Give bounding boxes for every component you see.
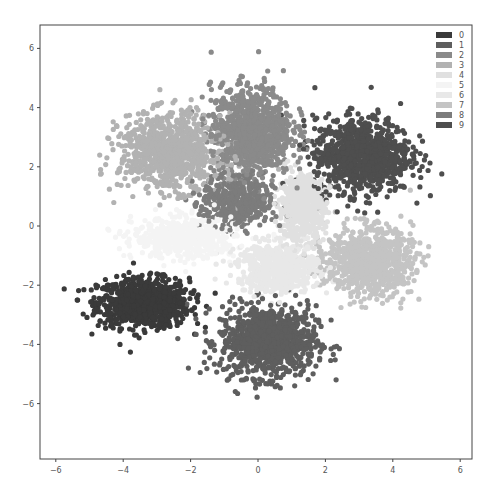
data-point: [111, 200, 116, 205]
data-point: [221, 247, 226, 252]
data-point: [224, 311, 229, 316]
data-point: [302, 251, 307, 256]
legend: 0123456789: [436, 31, 464, 130]
data-point: [295, 258, 300, 263]
data-point: [236, 119, 241, 124]
data-point: [108, 311, 113, 316]
data-point: [176, 222, 181, 227]
data-point: [259, 323, 264, 328]
data-point: [318, 265, 323, 270]
data-point: [160, 116, 165, 121]
data-point: [389, 132, 394, 137]
data-point: [172, 185, 177, 190]
data-point: [313, 317, 318, 322]
data-point: [277, 101, 282, 106]
data-point: [276, 355, 281, 360]
legend-swatch: [436, 42, 452, 48]
data-point: [153, 240, 158, 245]
data-point: [261, 365, 266, 370]
data-point: [275, 314, 280, 319]
data-point: [251, 118, 256, 123]
data-point: [142, 312, 147, 317]
data-point: [254, 288, 259, 293]
data-point: [277, 300, 282, 305]
legend-swatch: [436, 32, 452, 38]
x-tick-label: −4: [117, 466, 129, 475]
data-point: [327, 184, 332, 189]
data-point: [213, 99, 218, 104]
data-point: [129, 144, 134, 149]
legend-label: 2: [459, 51, 464, 60]
data-point: [259, 116, 264, 121]
data-point: [232, 121, 237, 126]
data-point: [373, 192, 378, 197]
data-point: [279, 309, 284, 314]
data-point: [303, 287, 308, 292]
legend-item-2: 2: [436, 51, 464, 60]
data-point: [375, 288, 380, 293]
data-point: [319, 177, 324, 182]
data-point: [291, 153, 296, 158]
data-point: [209, 132, 214, 137]
x-tick-label: 0: [255, 466, 260, 475]
data-point: [275, 283, 280, 288]
data-point: [228, 263, 233, 268]
data-point: [207, 82, 212, 87]
data-point: [164, 174, 169, 179]
data-point: [375, 210, 380, 215]
data-point: [165, 118, 170, 123]
data-point: [295, 185, 300, 190]
data-point: [223, 340, 228, 345]
data-point: [234, 349, 239, 354]
data-point: [331, 352, 336, 357]
data-point: [256, 49, 261, 54]
data-point: [126, 183, 131, 188]
data-point: [235, 370, 240, 375]
data-point: [282, 184, 287, 189]
data-point: [395, 262, 400, 267]
data-point: [355, 208, 360, 213]
data-point: [268, 133, 273, 138]
data-point: [200, 116, 205, 121]
data-point: [260, 135, 265, 140]
data-point: [273, 293, 278, 298]
data-point: [243, 136, 248, 141]
data-point: [149, 234, 154, 239]
data-point: [373, 252, 378, 257]
data-point: [355, 288, 360, 293]
data-point: [260, 296, 265, 301]
data-point: [178, 143, 183, 148]
data-point: [224, 280, 229, 285]
data-point: [334, 344, 339, 349]
data-point: [217, 113, 222, 118]
data-point: [375, 238, 380, 243]
data-point: [281, 68, 286, 73]
data-point: [140, 129, 145, 134]
data-point: [250, 282, 255, 287]
data-point: [262, 207, 267, 212]
data-point: [258, 254, 263, 259]
data-point: [366, 136, 371, 141]
data-point: [220, 142, 225, 147]
data-point: [394, 270, 399, 275]
data-point: [246, 208, 251, 213]
data-point: [244, 331, 249, 336]
data-point: [229, 352, 234, 357]
data-point: [237, 200, 242, 205]
data-point: [290, 190, 295, 195]
data-point: [201, 248, 206, 253]
data-point: [240, 94, 245, 99]
legend-swatch: [436, 112, 452, 118]
data-point: [273, 272, 278, 277]
data-point: [290, 356, 295, 361]
data-point: [293, 293, 298, 298]
legend-label: 7: [459, 101, 464, 110]
data-point: [361, 139, 366, 144]
data-point: [236, 264, 241, 269]
data-point: [349, 127, 354, 132]
data-point: [117, 229, 122, 234]
data-point: [221, 367, 226, 372]
data-point: [289, 305, 294, 310]
data-point: [288, 217, 293, 222]
data-point: [84, 315, 89, 320]
